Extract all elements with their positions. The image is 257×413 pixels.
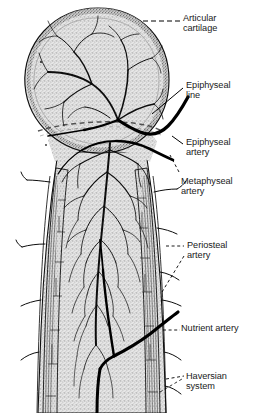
- label-epiphyseal-artery: Epiphyseal artery: [186, 137, 230, 158]
- bone-blood-supply-figure: [0, 0, 257, 413]
- label-epiphyseal-line: Epiphyseal line: [186, 80, 230, 101]
- label-nutrient-artery: Nutrient artery: [181, 323, 238, 333]
- leader-periosteal-artery-lower: [162, 256, 184, 292]
- label-haversian-system: Haversian system: [186, 371, 227, 392]
- label-metaphyseal-artery: Metaphyseal artery: [181, 176, 233, 197]
- label-periosteal-artery: Periosteal artery: [187, 240, 227, 261]
- leader-metaphyseal-artery: [170, 155, 179, 172]
- leader-haversian-system: [166, 376, 184, 379]
- label-articular-cartilage: Articular cartilage: [183, 13, 217, 34]
- epiphysis: [25, 8, 169, 153]
- leader-epiphyseal-artery: [172, 136, 183, 144]
- figure-canvas: [0, 0, 257, 413]
